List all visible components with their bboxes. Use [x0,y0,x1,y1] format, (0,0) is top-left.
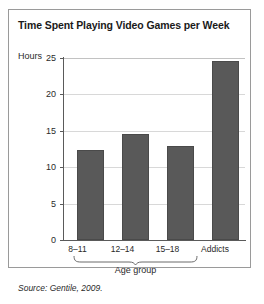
source-note: Source: Gentile, 2009. [18,283,103,293]
y-tick-label-0: 0 [30,236,56,245]
bar-12-14 [122,134,149,240]
y-tick-mark-20 [60,94,63,95]
y-axis-line [63,57,64,241]
y-tick-mark-15 [60,131,63,132]
bar-addicts [212,61,239,240]
x-tick-label-addicts: Addicts [194,244,236,254]
gridline-25 [63,58,245,59]
figure-root: Time Spent Playing Video Games per Week … [0,0,264,304]
x-tick-label-15-18: 15–18 [152,244,183,254]
y-tick-mark-5 [60,204,63,205]
bar-15-18 [167,146,194,240]
y-tick-label-5: 5 [30,200,56,209]
y-tick-label-15: 15 [30,127,56,136]
x-tick-label-12-14: 12–14 [107,244,138,254]
age-group-label: Age group [73,265,198,275]
age-group-bracket [73,256,198,265]
bar-8-11 [77,150,104,240]
y-tick-label-20: 20 [30,90,56,99]
plot-area [63,58,245,240]
y-tick-mark-10 [60,167,63,168]
y-tick-mark-25 [60,58,63,59]
chart-title: Time Spent Playing Video Games per Week [18,19,229,31]
x-axis-line [63,240,246,241]
y-tick-mark-0 [60,240,63,241]
y-tick-label-25: 25 [30,54,56,63]
y-tick-label-10: 10 [30,163,56,172]
x-tick-label-8-11: 8–11 [62,244,93,254]
